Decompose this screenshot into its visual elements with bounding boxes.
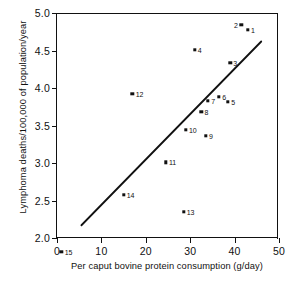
data-point bbox=[200, 110, 203, 113]
plot-area: 2.02.53.03.54.04.55.0 01020304050 123456… bbox=[56, 13, 278, 238]
x-tick-label: 40 bbox=[229, 245, 241, 257]
data-point-label: 7 bbox=[211, 97, 215, 104]
data-point-label: 15 bbox=[65, 248, 73, 255]
y-tick bbox=[52, 163, 57, 164]
y-axis-title: Lymphoma deaths/100,000 of population/ye… bbox=[18, 0, 28, 237]
y-tick-label: 4.0 bbox=[35, 82, 50, 94]
y-tick bbox=[52, 201, 57, 202]
y-tick-label: 5.0 bbox=[35, 7, 50, 19]
data-point-label: 4 bbox=[198, 46, 202, 53]
data-point-label: 10 bbox=[189, 127, 197, 134]
data-point-label: 3 bbox=[233, 59, 237, 66]
x-tick bbox=[57, 238, 58, 243]
y-tick-label: 4.5 bbox=[35, 45, 50, 57]
x-tick-label: 50 bbox=[273, 245, 285, 257]
x-tick-label: 10 bbox=[95, 245, 107, 257]
data-point-label: 8 bbox=[205, 109, 209, 116]
y-tick-label: 2.0 bbox=[35, 232, 50, 244]
data-point bbox=[240, 23, 243, 26]
y-tick-label: 3.5 bbox=[35, 120, 50, 132]
data-point bbox=[217, 95, 220, 98]
data-point-label: 1 bbox=[251, 26, 255, 33]
y-tick-label: 3.0 bbox=[35, 157, 50, 169]
data-point bbox=[226, 100, 229, 103]
chart-page: 2.02.53.03.54.04.55.0 01020304050 123456… bbox=[0, 0, 295, 283]
x-tick-label: 20 bbox=[140, 245, 152, 257]
data-point bbox=[193, 48, 196, 51]
x-tick bbox=[190, 238, 191, 243]
data-point bbox=[228, 61, 231, 64]
x-tick bbox=[101, 238, 102, 243]
data-point bbox=[206, 99, 209, 102]
y-tick bbox=[52, 88, 57, 89]
data-point bbox=[122, 193, 125, 196]
data-point-label: 11 bbox=[169, 159, 176, 166]
data-point-label: 9 bbox=[209, 133, 213, 140]
data-point bbox=[182, 210, 185, 213]
y-tick bbox=[52, 13, 57, 14]
data-point-label: 14 bbox=[127, 191, 135, 198]
data-point bbox=[60, 250, 63, 253]
y-tick-label: 2.5 bbox=[35, 195, 50, 207]
data-point-label: 12 bbox=[136, 91, 144, 98]
data-point-label: 13 bbox=[187, 208, 195, 215]
data-point bbox=[164, 161, 167, 164]
data-point bbox=[131, 92, 134, 95]
x-axis-title: Per caput bovine protein consumption (g/… bbox=[56, 261, 278, 271]
y-tick bbox=[52, 51, 57, 52]
x-tick bbox=[279, 238, 280, 243]
data-point bbox=[184, 128, 187, 131]
x-tick-label: 30 bbox=[184, 245, 196, 257]
x-tick bbox=[146, 238, 147, 243]
y-tick bbox=[52, 126, 57, 127]
data-point bbox=[204, 134, 207, 137]
data-point bbox=[246, 28, 249, 31]
data-point-label: 6 bbox=[222, 94, 226, 101]
data-point-label: 2 bbox=[234, 22, 238, 29]
data-point-label: 5 bbox=[231, 98, 235, 105]
trend-line bbox=[57, 13, 279, 238]
x-tick bbox=[235, 238, 236, 243]
